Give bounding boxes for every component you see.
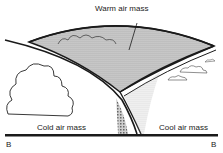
ground-line [5,134,218,137]
cool-air-mass-label: Cool air mass [159,124,208,132]
cold-air-mass-label: Cold air mass [37,124,86,132]
right-marker-label: B [211,141,216,149]
cumulus-cloud [7,64,74,116]
warm-air-mass-label: Warm air mass [95,5,148,13]
small-cloud [180,66,207,73]
left-marker-label: B [6,141,11,149]
